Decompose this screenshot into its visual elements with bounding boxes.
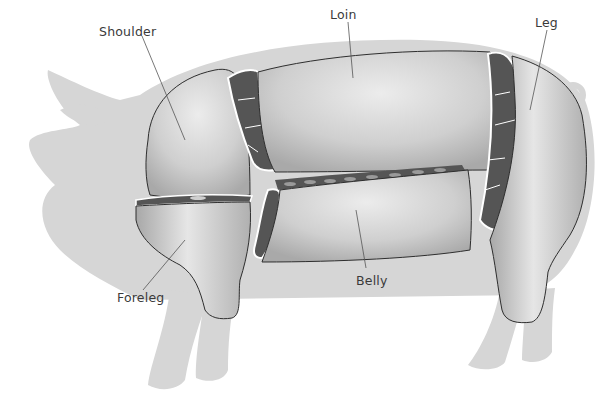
label-leg: Leg <box>535 15 558 30</box>
label-loin: Loin <box>330 7 357 22</box>
label-belly: Belly <box>356 273 388 288</box>
label-foreleg: Foreleg <box>117 290 164 305</box>
label-shoulder: Shoulder <box>99 24 156 39</box>
cut-loin <box>258 51 503 172</box>
pig-cuts-diagram <box>0 0 615 404</box>
